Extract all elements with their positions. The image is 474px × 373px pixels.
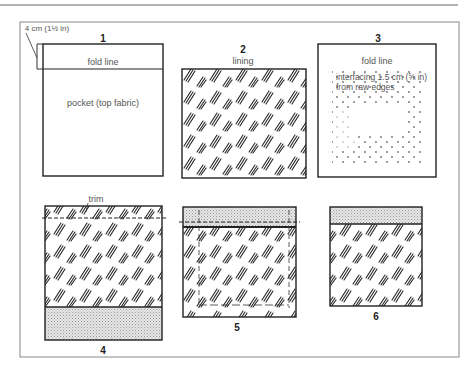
- panel-number-5: 5: [234, 322, 240, 333]
- measurement-label: 4 cm (1½ in): [25, 24, 69, 33]
- fold-line-label-1: fold line: [87, 57, 118, 67]
- trim-label: trim: [89, 194, 104, 204]
- panel-number-2: 2: [240, 44, 246, 55]
- fold-line-label-3: fold line: [361, 56, 392, 66]
- panel-number-4: 4: [100, 345, 106, 356]
- pocket-label: pocket (top fabric): [67, 98, 139, 108]
- lining-label: lining: [232, 56, 253, 66]
- panel-number-6: 6: [373, 311, 379, 322]
- interfacing-label: interfacing 1.5 cm (⅝ in) from raw edges: [336, 72, 428, 92]
- panel-5: [179, 207, 300, 317]
- panel-4: [42, 203, 166, 340]
- panel-number-1: 1: [100, 33, 106, 44]
- panel-6: [330, 207, 422, 306]
- panel-number-3: 3: [375, 33, 381, 44]
- panel-2: [182, 69, 306, 178]
